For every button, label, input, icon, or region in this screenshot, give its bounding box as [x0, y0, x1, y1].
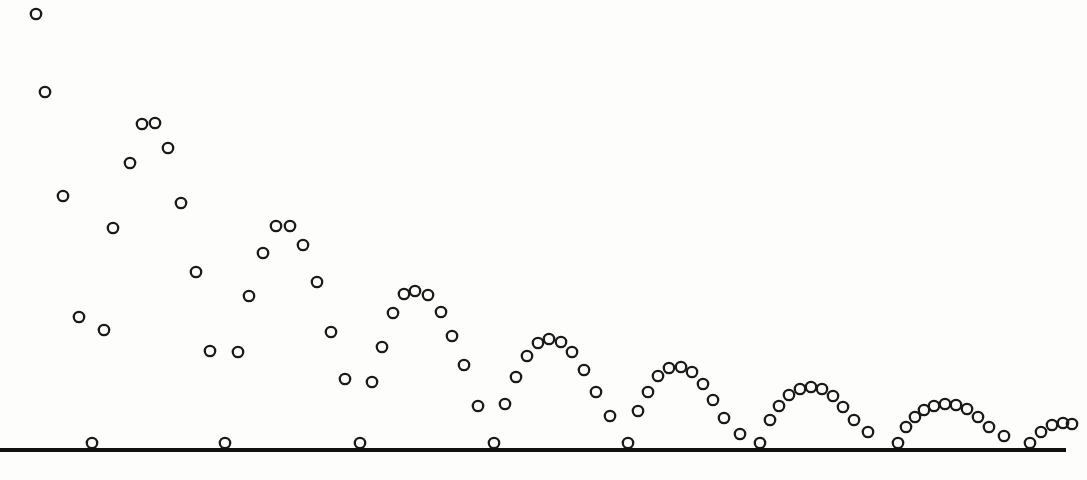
- bouncing-ball-figure: Bouncing Ball Trajectory Strobe/strobosc…: [0, 0, 1087, 480]
- trajectory-plot-canvas: [0, 0, 1087, 480]
- plot-background: [0, 0, 1087, 480]
